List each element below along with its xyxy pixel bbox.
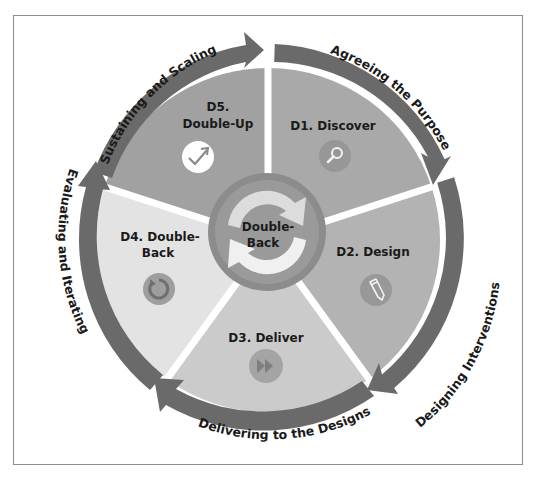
pencil-icon [360, 274, 392, 306]
magnifier-icon [319, 140, 351, 172]
hub-label-line2: Back [247, 236, 280, 250]
stage-label-d5-line2: Double-Up [183, 117, 254, 131]
hub-label-line1: Double- [242, 220, 295, 234]
check-arrow-icon [182, 141, 214, 173]
stage-label-d1: D1. Discover [290, 119, 376, 133]
stage-label-d3: D3. Deliver [228, 331, 303, 345]
stage-label-d2: D2. Design [336, 245, 410, 259]
double-diamond-cycle-diagram: Sustaining and Scaling Agreeing the Purp… [0, 0, 538, 479]
stage-label-d4-line2: Back [142, 246, 175, 260]
stage-label-d4-line1: D4. Double- [120, 230, 200, 244]
refresh-icon [143, 273, 175, 305]
stage-label-d5-line1: D5. [207, 100, 230, 114]
fast-forward-icon [249, 349, 283, 383]
hub-double-back[interactable]: Double- Back [208, 173, 326, 291]
